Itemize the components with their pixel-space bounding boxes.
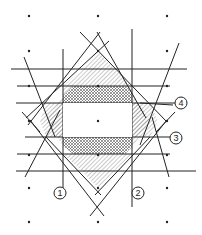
diag-right-x [156,112,175,132]
grid-dot [28,221,30,223]
grid-dot [28,187,30,189]
grid-dot [97,85,99,87]
grid-dot [166,85,168,87]
label-1-text: 1 [57,188,62,198]
grid-dot [97,15,99,17]
grid-dot [97,50,99,52]
right-upper-wedge [132,103,158,121]
label-3-text: 3 [173,133,178,143]
label-1: 1 [54,187,66,199]
grid-dot [97,154,99,156]
grid-dot [166,154,168,156]
center-dot [97,120,99,122]
diag-right-lower-steep [152,117,169,177]
diag-left-x [22,112,40,132]
lower-cross-region [63,137,132,154]
label-4-text: 4 [178,98,183,108]
line-arrangement-diagram: 1 2 3 4 [0,0,202,235]
grid-dot [166,50,168,52]
label-2: 2 [132,187,144,199]
label-4: 4 [175,97,187,109]
lower-band-region [63,154,132,171]
grid-dot [28,154,30,156]
grid-dot [28,120,30,122]
grid-dot [28,85,30,87]
grid-dot [166,221,168,223]
upper-cross-region [63,86,132,103]
grid-dot [97,221,99,223]
label-2-text: 2 [135,188,140,198]
grid-dot [28,50,30,52]
grid-dot [166,15,168,17]
grid-dot [28,15,30,17]
label-3: 3 [170,132,182,144]
grid-dot [97,187,99,189]
grid-dot [166,187,168,189]
grid-dot [166,120,168,122]
